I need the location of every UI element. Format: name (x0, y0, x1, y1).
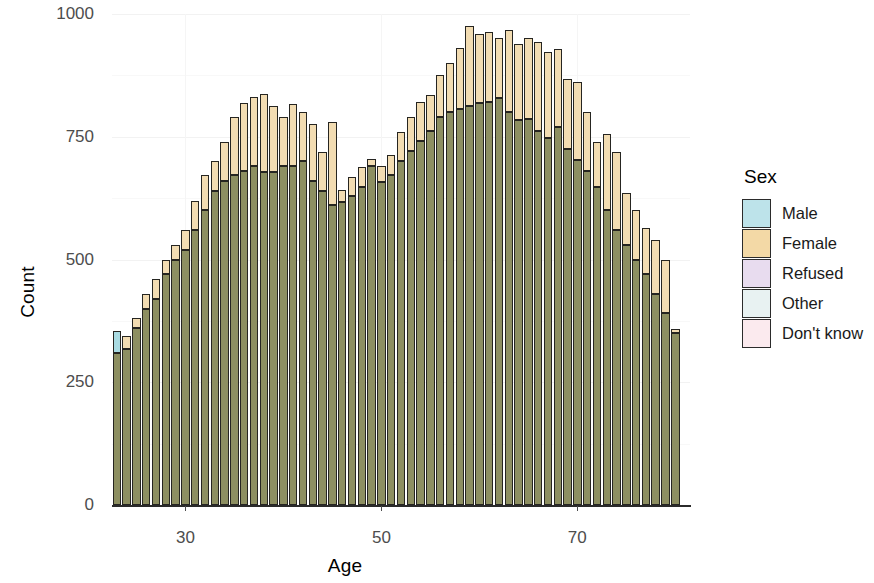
legend-swatch-icon (742, 259, 771, 288)
bar-segment-female (583, 112, 591, 171)
bar-segment-female (534, 42, 542, 131)
histogram-bar (612, 152, 620, 505)
legend-item-refused[interactable]: Refused (742, 258, 872, 288)
bar-segment-overlap (622, 245, 630, 505)
histogram-bar (573, 82, 581, 505)
histogram-bar (436, 75, 444, 505)
histogram-bar (367, 159, 375, 505)
bar-segment-female (651, 240, 659, 294)
histogram-bar (416, 102, 424, 505)
bar-segment-female (593, 142, 601, 187)
legend-item-don-t-know[interactable]: Don't know (742, 318, 872, 348)
x-tick-label: 30 (176, 528, 195, 548)
bar-segment-female (318, 152, 326, 191)
legend-title: Sex (744, 166, 872, 188)
bar-segment-overlap (475, 103, 483, 505)
bar-segment-female (642, 228, 650, 274)
bar-segment-female (475, 34, 483, 104)
chart-root: Count 02505007501000 305070 Age Sex Male… (0, 0, 874, 583)
x-tick-label: 50 (372, 528, 391, 548)
bar-segment-overlap (250, 166, 258, 505)
bar-segment-overlap (348, 196, 356, 505)
histogram-bar (387, 155, 395, 505)
histogram-bar (475, 34, 483, 505)
bar-segment-overlap (240, 171, 248, 505)
bar-segment-overlap (465, 106, 473, 505)
histogram-bar (269, 106, 277, 505)
x-axis-title: Age (0, 555, 690, 577)
bar-segment-overlap (456, 109, 464, 505)
bar-segment-female (299, 112, 307, 161)
histogram-bar (201, 175, 209, 505)
bar-segment-overlap (142, 309, 150, 505)
bar-segment-overlap (220, 181, 228, 505)
histogram-bar (152, 279, 160, 505)
histogram-bars (112, 14, 690, 505)
bar-segment-female (514, 44, 522, 120)
histogram-bar (328, 122, 336, 505)
bar-segment-overlap (289, 166, 297, 505)
histogram-bar (514, 44, 522, 505)
y-tick-label: 0 (34, 495, 94, 515)
bar-segment-overlap (113, 353, 121, 505)
bar-segment-overlap (318, 191, 326, 505)
histogram-bar (338, 190, 346, 505)
bar-segment-female (309, 124, 317, 181)
legend-item-label: Female (782, 234, 837, 253)
histogram-bar (191, 201, 199, 505)
bar-segment-overlap (211, 191, 219, 505)
legend-item-female[interactable]: Female (742, 228, 872, 258)
histogram-bar (142, 294, 150, 505)
bar-segment-female (279, 117, 287, 166)
legend-item-label: Refused (782, 264, 843, 283)
bar-segment-overlap (671, 333, 679, 505)
x-tick-mark (381, 506, 382, 511)
bar-segment-overlap (201, 210, 209, 505)
histogram-bar (230, 117, 238, 505)
bar-segment-female (661, 260, 669, 313)
bar-segment-female (211, 161, 219, 190)
legend-item-label: Other (782, 294, 823, 313)
legend-swatch-icon (742, 199, 771, 228)
bar-segment-overlap (171, 260, 179, 506)
legend-swatch-icon (742, 229, 771, 258)
bar-segment-overlap (132, 328, 140, 505)
histogram-bar (113, 331, 121, 505)
histogram-bar (348, 177, 356, 505)
histogram-bar (260, 94, 268, 505)
histogram-bar (485, 32, 493, 505)
bar-segment-overlap (397, 161, 405, 505)
histogram-bar (544, 52, 552, 505)
histogram-bar (240, 103, 248, 505)
bar-segment-overlap (162, 274, 170, 505)
bar-segment-female (220, 142, 228, 181)
y-tick-label: 750 (34, 127, 94, 147)
histogram-bar (505, 30, 513, 505)
x-tick-mark (185, 506, 186, 511)
bar-segment-female (260, 94, 268, 173)
bar-segment-overlap (299, 161, 307, 505)
bar-segment-female (632, 210, 640, 259)
histogram-bar (122, 336, 130, 505)
bar-segment-overlap (563, 149, 571, 505)
legend-item-male[interactable]: Male (742, 198, 872, 228)
legend-item-label: Male (782, 204, 818, 223)
bar-segment-overlap (181, 250, 189, 505)
bar-segment-female (603, 134, 611, 211)
histogram-bar (642, 228, 650, 505)
bar-segment-female (367, 159, 375, 166)
bar-segment-overlap (191, 230, 199, 505)
legend-item-other[interactable]: Other (742, 288, 872, 318)
bar-segment-female (387, 155, 395, 175)
histogram-bar (603, 134, 611, 505)
bar-segment-female (181, 230, 189, 250)
bar-segment-overlap (309, 181, 317, 505)
bar-segment-female (622, 193, 630, 245)
bar-segment-female (671, 329, 679, 333)
bar-segment-female (485, 32, 493, 103)
bar-segment-overlap (367, 166, 375, 505)
histogram-bar (524, 38, 532, 505)
bar-segment-female (416, 102, 424, 140)
histogram-bar (279, 117, 287, 505)
bar-segment-female (436, 75, 444, 117)
